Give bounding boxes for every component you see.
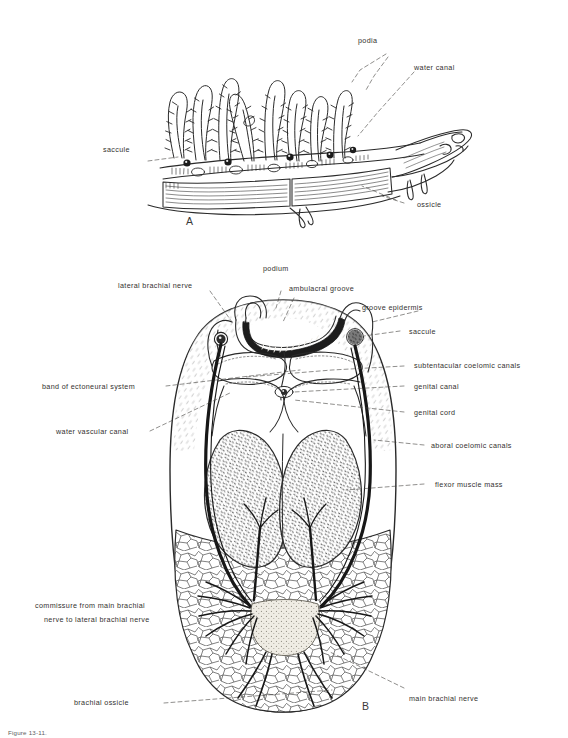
muscle-blocks-a [163,168,392,209]
label-groove-epidermis: groove epidermis [362,303,423,313]
label-aboral-coelomic-canals: aboral coelomic canals [431,441,512,451]
panel-a-id: A [186,215,193,227]
panel-b-id: B [362,700,369,712]
label-commissure-line-2: nerve to lateral brachial nerve [44,615,150,625]
label-genital-cord: genital cord [414,408,455,418]
label-subtentacular-coelomic-canals: subtentacular coelomic canals [414,361,520,371]
saccule-b [347,329,364,346]
label-genital-canal: genital canal [414,382,459,392]
label-main-brachial-nerve: main brachial nerve [409,694,478,704]
podia-group [165,79,354,161]
figure-caption: Figure 13-11. [8,729,47,736]
label-ambulacral-groove: ambulacral groove [289,284,354,294]
label-saccule-b: saccule [409,327,436,337]
ossicle-a [388,130,472,200]
label-podia: podia [358,36,377,46]
panel-b-drawing [150,291,424,712]
label-water-canal: water canal [414,63,455,73]
main-brachial-nerve-shape [250,600,319,656]
groove-band-a [160,143,424,179]
flexor-muscle-mass-shapes [205,430,362,567]
label-water-vascular-canal: water vascular canal [56,427,129,437]
label-podium: podium [263,264,289,274]
genital-canal-shape [275,386,293,397]
label-brachial-ossicle: brachial ossicle [74,698,129,708]
label-commissure-line-1: commissure from main brachial [35,601,145,611]
label-flexor-muscle-mass: flexor muscle mass [435,480,503,490]
label-saccule-a: saccule [103,145,130,155]
label-lateral-brachial-nerve: lateral brachial nerve [118,281,192,291]
label-band-of-ectoneural-system: band of ectoneural system [42,382,135,392]
label-ossicle: ossicle [417,200,441,210]
figure-plate: podia water canal saccule ossicle A late… [0,0,568,738]
